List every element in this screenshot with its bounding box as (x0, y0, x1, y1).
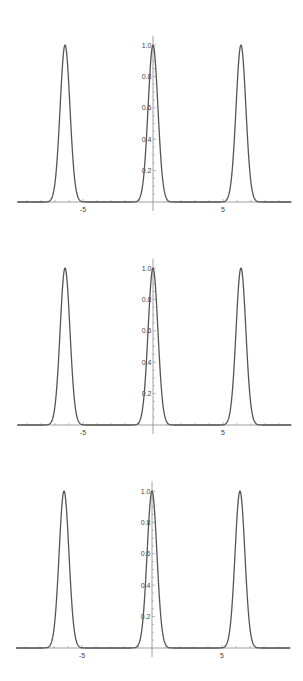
plot-1: -550.20.40.60.81.0 (17, 36, 291, 213)
x-tick-label: -5 (80, 206, 86, 213)
y-tick-label: 1.0 (141, 488, 151, 495)
y-tick-label: 0.2 (142, 390, 152, 397)
x-tick-label: 5 (220, 652, 224, 659)
plots-canvas: -550.20.40.60.81.0 -550.20.40.60.81.0 -5… (0, 0, 303, 681)
y-tick-label: 0.2 (142, 167, 152, 174)
x-tick-label: 5 (221, 206, 225, 213)
plot-3: -550.20.40.60.81.0 (16, 482, 290, 659)
y-tick-label: 1.0 (142, 42, 152, 49)
y-tick-label: 0.6 (142, 104, 152, 111)
x-tick-label: -5 (80, 429, 86, 436)
y-tick-label: 0.2 (141, 613, 151, 620)
y-tick-label: 0.6 (141, 550, 151, 557)
y-tick-label: 0.6 (142, 327, 152, 334)
x-tick-label: -5 (79, 652, 85, 659)
y-tick-label: 1.0 (142, 265, 152, 272)
x-tick-label: 5 (221, 429, 225, 436)
plot-2: -550.20.40.60.81.0 (17, 259, 291, 436)
